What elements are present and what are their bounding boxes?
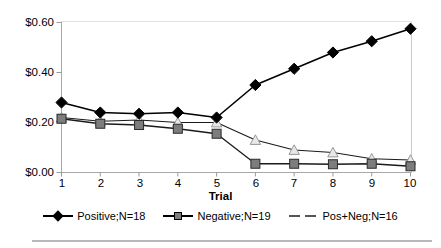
diamond-marker-icon: [53, 210, 64, 221]
x-tick-label-9: 10: [400, 178, 420, 189]
x-tick-label-3: 4: [168, 178, 188, 189]
legend-line-negative: [163, 211, 193, 221]
x-tick-label-0: 1: [52, 178, 72, 189]
legend-label-negative: Negative;N=19: [197, 210, 270, 222]
legend-label-positive: Positive;N=18: [77, 210, 145, 222]
legend-line-positive: [43, 211, 73, 221]
legend-item-negative[interactable]: Negative;N=19: [163, 210, 270, 222]
x-axis-title: Trial: [0, 190, 441, 202]
square-marker-icon: [174, 212, 182, 220]
x-tick-label-8: 9: [362, 178, 382, 189]
legend-label-posneg: Pos+Neg;N=16: [323, 210, 398, 222]
x-tick-label-1: 2: [91, 178, 111, 189]
x-tick-label-6: 7: [284, 178, 304, 189]
legend-line-posneg: [289, 211, 319, 221]
x-tick-label-5: 6: [246, 178, 266, 189]
legend-item-posneg[interactable]: Pos+Neg;N=16: [289, 210, 398, 222]
chart-legend: Positive;N=18 Negative;N=19 Pos+Neg;N=16: [0, 210, 441, 222]
legend-item-positive[interactable]: Positive;N=18: [43, 210, 145, 222]
y-tick-label-3: $0.60: [8, 17, 54, 28]
bottom-divider: [32, 240, 432, 242]
y-tick-label-0: $0.00: [8, 167, 54, 178]
x-tick-label-4: 5: [207, 178, 227, 189]
y-tick-label-1: $0.20: [8, 117, 54, 128]
x-tick-label-7: 8: [323, 178, 343, 189]
x-tick-label-2: 3: [130, 178, 150, 189]
y-tick-label-2: $0.40: [8, 67, 54, 78]
chart-figure: $0.60 $0.40 $0.20 $0.00 1 2 3 4 5 6 7 8 …: [0, 0, 441, 248]
